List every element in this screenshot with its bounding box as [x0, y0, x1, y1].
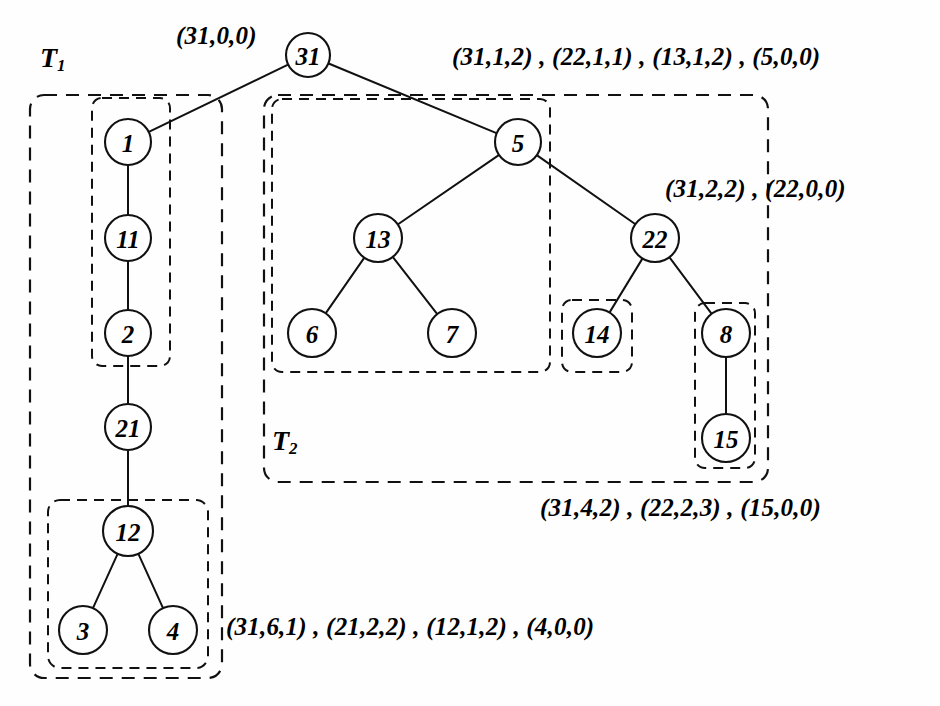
node-label-12: 12: [116, 519, 141, 546]
tree-label-subscript: 1: [57, 56, 66, 75]
annotation-root: (31,0,0): [176, 22, 257, 50]
tree-node-22[interactable]: 22: [631, 214, 679, 262]
annotation-top-right: (31,1,2) , (22,1,1) , (13,1,2) , (5,0,0): [452, 43, 820, 71]
node-label-8: 8: [720, 321, 733, 348]
node-label-5: 5: [512, 130, 525, 157]
tree-label-base: T: [272, 425, 289, 456]
edge-22-14: [609, 258, 643, 314]
group-box-t1-outer: [30, 95, 222, 678]
tree-node-21[interactable]: 21: [105, 404, 151, 450]
edge-22-8: [669, 256, 712, 314]
node-label-6: 6: [306, 321, 319, 348]
tree-node-14[interactable]: 14: [573, 309, 621, 357]
annotation-mid-right: (31,2,2) , (22,0,0): [665, 175, 846, 203]
tree-label-t1: T1: [40, 42, 66, 76]
tree-node-1[interactable]: 1: [105, 119, 151, 165]
tree-node-4[interactable]: 4: [149, 606, 197, 654]
node-label-2: 2: [121, 321, 135, 348]
node-label-1: 1: [122, 130, 135, 157]
node-label-4: 4: [166, 618, 180, 645]
node-label-3: 3: [76, 618, 90, 645]
node-label-11: 11: [116, 226, 140, 253]
tree-node-3[interactable]: 3: [59, 606, 107, 654]
tree-node-15[interactable]: 15: [702, 414, 750, 462]
annotation-bottom-right: (31,4,2) , (22,2,3) , (15,0,0): [540, 494, 821, 522]
tree-node-12[interactable]: 12: [103, 506, 153, 556]
node-label-21: 21: [115, 415, 141, 442]
tree-node-13[interactable]: 13: [354, 214, 402, 262]
edge-12-3: [93, 553, 119, 609]
edge-13-6: [325, 257, 365, 314]
annotation-bottom-left: (31,6,1) , (21,2,2) , (12,1,2) , (4,0,0): [226, 613, 594, 641]
node-label-22: 22: [642, 226, 668, 253]
node-label-14: 14: [585, 321, 610, 348]
edge-5-22: [536, 155, 636, 225]
tree-node-8[interactable]: 8: [702, 309, 750, 357]
node-label-7: 7: [446, 321, 460, 348]
tree-node-11[interactable]: 11: [105, 215, 151, 261]
tree-edges-layer: [93, 63, 726, 609]
tree-node-2[interactable]: 2: [105, 310, 151, 356]
tree-node-5[interactable]: 5: [495, 119, 541, 165]
tree-diagram-svg: 311112211234513672214815: [0, 0, 940, 706]
node-label-31: 31: [295, 43, 321, 70]
figure-canvas: 311112211234513672214815 (31,0,0)(31,1,2…: [0, 0, 940, 706]
edge-12-4: [138, 553, 164, 609]
edge-5-13: [397, 154, 500, 225]
tree-label-subscript: 2: [289, 439, 298, 458]
tree-label-t2: T2: [272, 425, 298, 459]
node-label-13: 13: [366, 226, 391, 253]
tree-node-6[interactable]: 6: [288, 309, 336, 357]
group-boxes-layer: [30, 95, 768, 678]
tree-node-31[interactable]: 31: [286, 33, 330, 77]
node-label-15: 15: [714, 426, 739, 453]
tree-label-base: T: [40, 42, 57, 73]
tree-node-7[interactable]: 7: [428, 309, 476, 357]
edge-13-7: [392, 256, 438, 315]
